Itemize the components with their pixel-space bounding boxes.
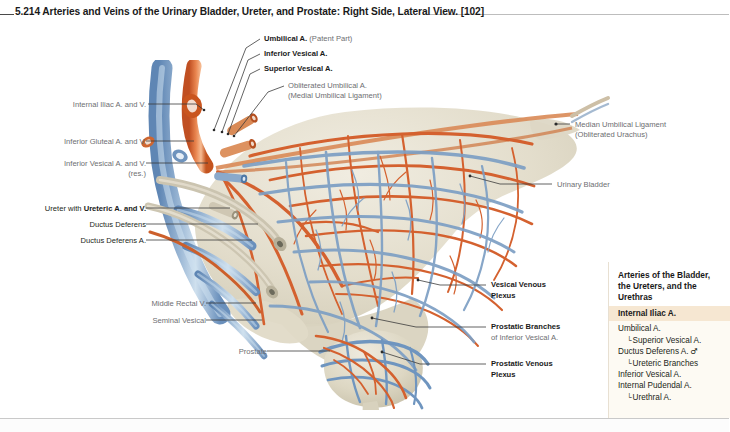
callout-inferior-gluteal: Inferior Gluteal A. and V. [0, 137, 149, 146]
callout-obliterated-umbilical-artery-line1: Obliterated Umbilical A. [288, 81, 367, 90]
callout-seminal-vesical: Seminal Vesical [60, 316, 209, 325]
callout-ureter-bold: Ureteric A. and V. [84, 204, 146, 213]
legend-items: Internal Iliac A. Umbilical A. └Superior… [609, 306, 730, 407]
callout-internal-iliac: Internal Iliac A. and V. [0, 100, 149, 109]
legend-header-internal-iliac: Internal Iliac A. [609, 306, 730, 321]
legend-item-inferior-vesical-artery: Inferior Vesical A. [618, 369, 722, 380]
legend-title-line-1: Arteries of the Bladder, [618, 270, 722, 281]
legend-item-label: Ductus Deferens A. [618, 347, 689, 356]
callout-umbilical-artery: Umbilical A. (Patent Part) [264, 34, 352, 43]
legend-title-block: Arteries of the Bladder, the Ureters, an… [609, 262, 730, 306]
callout-inferior-vesical-av-line1: Inferior Vesical A. and V. [0, 159, 149, 168]
figure-title: 5.214 Arteries and Veins of the Urinary … [15, 6, 484, 17]
legend-item-umbilical-artery: Umbilical A. [618, 323, 722, 334]
callout-median-umbilical-ligament-line2: (Obliterated Urachus) [575, 130, 648, 139]
legend-item-label: Ureteric Branches [633, 359, 699, 368]
legend-title-line-2: the Ureters, and the [618, 281, 722, 292]
callout-superior-vesical-artery: Superior Vesical A. [264, 64, 333, 73]
callout-urinary-bladder: Urinary Bladder [557, 180, 610, 189]
callout-prostatic-branches-line2: of Inferior Vesical A. [491, 333, 558, 342]
callout-inferior-vesical-artery: Inferior Vesical A. [264, 49, 327, 58]
legend-item-ureteric-branches: └Ureteric Branches [618, 358, 722, 369]
legend-panel: Arteries of the Bladder, the Ureters, an… [608, 262, 730, 418]
branch-marker-icon: └ [627, 393, 632, 402]
legend-item-ductus-deferens-artery: Ductus Deferens A.♂ [618, 346, 722, 357]
legend-item-label: Urethral A. [633, 393, 672, 402]
legend-item-label: Superior Vesical A. [633, 336, 702, 345]
legend-title: Arteries of the Bladder, the Ureters, an… [618, 270, 722, 303]
title-rule-left [0, 14, 14, 15]
callout-ductus-deferens: Ductus Deferens [0, 220, 149, 229]
callout-ureter: Ureter with Ureteric A. and V. [0, 204, 149, 213]
callout-median-umbilical-ligament-line1: Median Umbilical Ligament [575, 120, 666, 129]
callout-prostatic-venous-plexus-line2: Plexus [491, 370, 515, 379]
male-symbol-icon: ♂ [691, 347, 698, 356]
legend-item-internal-pudendal-artery: Internal Pudendal A. [618, 380, 722, 391]
callout-vesical-venous-plexus-line1: Vesical Venous [491, 280, 546, 289]
callout-umbilical-artery-note: (Patent Part) [309, 34, 352, 43]
legend-item-urethral-artery: └Urethral A. [618, 392, 722, 403]
callout-obliterated-umbilical-artery-line2: (Medial Umbilical Ligament) [288, 91, 382, 100]
callout-prostatic-venous-plexus-line1: Prostatic Venous [491, 359, 553, 368]
callout-middle-rectal-vein: Middle Rectal V. [60, 299, 209, 308]
branch-marker-icon: └ [627, 359, 632, 368]
legend-item-superior-vesical-artery: └Superior Vesical A. [618, 335, 722, 346]
callout-inferior-vesical-av-line2: (res.) [0, 169, 149, 178]
callout-umbilical-artery-bold: Umbilical A. [264, 34, 307, 43]
branch-marker-icon: └ [627, 336, 632, 345]
callout-ureter-plain: Ureter with [45, 204, 84, 213]
callout-ductus-deferens-artery: Ductus Deferens A. [0, 236, 149, 245]
page-bottom-margin [0, 419, 729, 432]
legend-title-line-3: Urethras [618, 292, 722, 303]
anatomy-illustration [120, 60, 620, 410]
callout-prostate: Prostate [121, 347, 270, 356]
callout-prostatic-branches-line1: Prostatic Branches [491, 322, 560, 331]
callout-vesical-venous-plexus-line2: Plexus [491, 291, 515, 300]
legend-item-label: Umbilical A. [618, 324, 661, 333]
legend-item-label: Internal Pudendal A. [618, 381, 692, 390]
legend-item-label: Inferior Vesical A. [618, 370, 681, 379]
